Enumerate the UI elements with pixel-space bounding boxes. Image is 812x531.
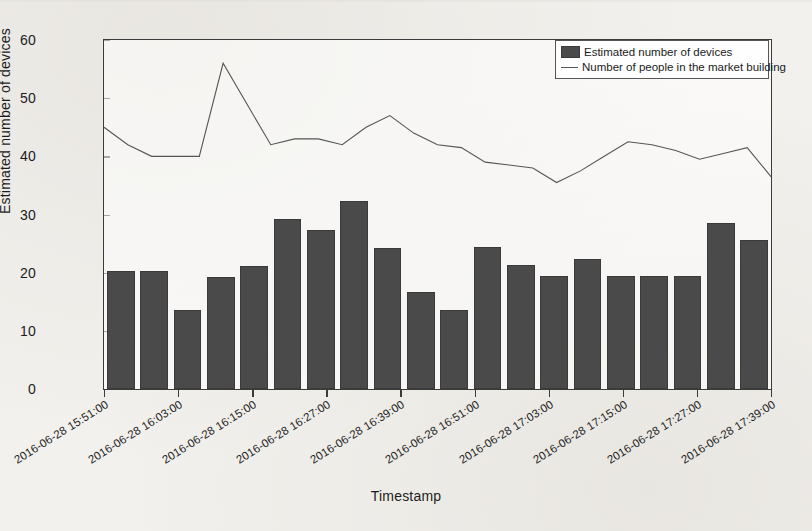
y-tick-label-50: 50 — [0, 90, 36, 106]
y-tick-label-30: 30 — [0, 207, 36, 223]
x-tick-mark — [400, 390, 401, 397]
chart-figure: Estimated number of devices 010203040506… — [0, 0, 812, 531]
x-tick-mark — [475, 390, 476, 397]
plot-area — [103, 39, 772, 390]
legend-line-swatch-icon — [561, 62, 578, 72]
y-axis-title: Estimated number of devices — [0, 28, 13, 214]
x-tick-mark — [178, 390, 179, 397]
line-series-people — [104, 40, 771, 389]
x-tick-mark — [326, 390, 327, 397]
people-line-path — [104, 63, 771, 182]
chart-legend: Estimated number of devices Number of pe… — [555, 40, 769, 79]
plot-inner — [104, 40, 771, 389]
x-tick-mark — [104, 390, 105, 397]
y-tick-label-10: 10 — [0, 323, 36, 339]
legend-item-devices: Estimated number of devices — [561, 44, 763, 59]
y-tick-label-40: 40 — [0, 148, 36, 164]
x-tick-mark — [549, 390, 550, 397]
legend-label-devices: Estimated number of devices — [584, 46, 732, 58]
legend-bar-swatch-icon — [561, 46, 580, 58]
x-tick-mark — [697, 390, 698, 397]
y-tick-label-60: 60 — [0, 32, 36, 48]
y-tick-label-0: 0 — [0, 381, 36, 397]
x-tick-mark — [771, 390, 772, 397]
legend-label-people: Number of people in the market building — [582, 61, 786, 73]
y-tick-label-20: 20 — [0, 265, 36, 281]
legend-item-people: Number of people in the market building — [561, 59, 763, 74]
x-tick-mark — [623, 390, 624, 397]
x-axis-title: Timestamp — [0, 488, 812, 504]
x-tick-mark — [252, 390, 253, 397]
